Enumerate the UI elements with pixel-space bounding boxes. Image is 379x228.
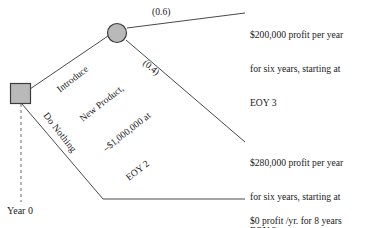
outcome-bottom: $0 profit /yr. for 8 years	[250, 192, 376, 228]
introduce-line-1: Introduce	[54, 50, 107, 95]
outcome-middle-line-1: $280,000 profit per year	[250, 157, 376, 168]
outcome-bottom-line-1: $0 profit /yr. for 8 years	[250, 215, 376, 226]
introduce-line-2: New Product,	[77, 80, 130, 125]
outcome-top: $200,000 profit per year for six years, …	[250, 6, 376, 130]
outcome-top-line-2: for six years, starting at	[250, 63, 376, 74]
chance-node	[108, 24, 127, 43]
outcome-top-line-3: EOY 3	[250, 97, 376, 108]
decision-tree-diagram: Introduce New Product, –$1,000,000 at EO…	[0, 0, 379, 228]
introduce-line-3: –$1,000,000 at	[100, 109, 153, 154]
year-zero-label: Year 0	[7, 205, 33, 217]
probability-label-upper: (0.6)	[152, 6, 170, 17]
outcome-top-line-1: $200,000 profit per year	[250, 29, 376, 40]
edge-chance-upper	[127, 13, 245, 28]
introduce-line-4: EOY 2	[123, 139, 176, 184]
decision-node	[11, 84, 31, 104]
